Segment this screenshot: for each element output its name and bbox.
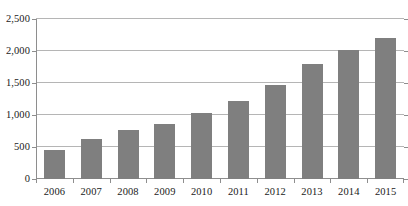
x-axis-ticks	[36, 179, 404, 183]
y-tick-left-0	[32, 179, 36, 180]
x-axis-label-2011: 2011	[220, 186, 257, 198]
y-tick-left-1000	[32, 115, 36, 116]
y-axis-label-2500: 2,500	[0, 14, 30, 25]
bar-2014	[338, 50, 359, 179]
x-axis-label-2012: 2012	[257, 186, 294, 198]
x-axis-label-2008: 2008	[110, 186, 147, 198]
x-tick-4	[183, 179, 184, 183]
y-axis-label-2000: 2,000	[0, 46, 30, 57]
x-axis-label-2014: 2014	[330, 186, 367, 198]
bar-2009	[154, 124, 175, 179]
x-tick-2	[110, 179, 111, 183]
y-tick-right-0	[404, 179, 408, 180]
y-tick-right-1500	[404, 83, 408, 84]
y-tick-left-500	[32, 147, 36, 148]
y-tick-left-1500	[32, 83, 36, 84]
y-axis-label-1000: 1,000	[0, 110, 30, 121]
x-tick-6	[257, 179, 258, 183]
x-axis-label-2010: 2010	[183, 186, 220, 198]
bar-2013	[302, 64, 323, 179]
bar-2010	[191, 113, 212, 179]
y-axis-line	[36, 19, 37, 180]
bar-2008	[118, 130, 139, 179]
x-axis-label-2009: 2009	[146, 186, 183, 198]
y-tick-left-2000	[32, 51, 36, 52]
y-axis-label-0: 0	[0, 174, 30, 185]
bar-2007	[81, 139, 102, 179]
x-axis-tick-labels: 2006200720082009201020112012201320142015	[36, 186, 404, 202]
bar-2015	[375, 38, 396, 179]
bar-2006	[44, 150, 65, 179]
y-axis-label-500: 500	[0, 142, 30, 153]
y-tick-right-1000	[404, 115, 408, 116]
y-axis-label-1500: 1,500	[0, 78, 30, 89]
y-tick-right-500	[404, 147, 408, 148]
x-tick-0	[36, 179, 37, 183]
x-tick-5	[220, 179, 221, 183]
x-tick-8	[330, 179, 331, 183]
x-tick-9	[367, 179, 368, 183]
bar-series	[36, 19, 404, 179]
x-axis-label-2007: 2007	[73, 186, 110, 198]
x-axis-label-2015: 2015	[367, 186, 404, 198]
y-tick-right-2500	[404, 19, 408, 20]
bar-2012	[265, 85, 286, 179]
x-axis-label-2013: 2013	[294, 186, 331, 198]
plot-area	[36, 19, 404, 179]
x-tick-3	[146, 179, 147, 183]
bar-2011	[228, 101, 249, 179]
y-tick-right-2000	[404, 51, 408, 52]
x-tick-1	[73, 179, 74, 183]
x-axis-label-2006: 2006	[36, 186, 73, 198]
x-tick-7	[294, 179, 295, 183]
y-tick-left-2500	[32, 19, 36, 20]
